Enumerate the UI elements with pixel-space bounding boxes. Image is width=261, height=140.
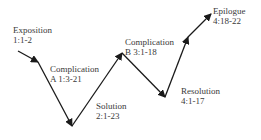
label-epilogue: Epilogue 4:18-22 [213, 6, 246, 26]
label-solution: Solution 2:1-23 [96, 101, 127, 121]
arrow-exposition [18, 51, 38, 62]
label-resolution: Resolution 4:1-17 [181, 86, 220, 106]
label-complication-b: Complication B 3:1-18 [125, 37, 174, 57]
arrow-epilogue [188, 14, 211, 37]
arrow-complication-b [122, 53, 165, 97]
label-exposition: Exposition 1:1-2 [13, 25, 52, 45]
label-complication-a: Complication A 1:3-21 [50, 64, 99, 84]
